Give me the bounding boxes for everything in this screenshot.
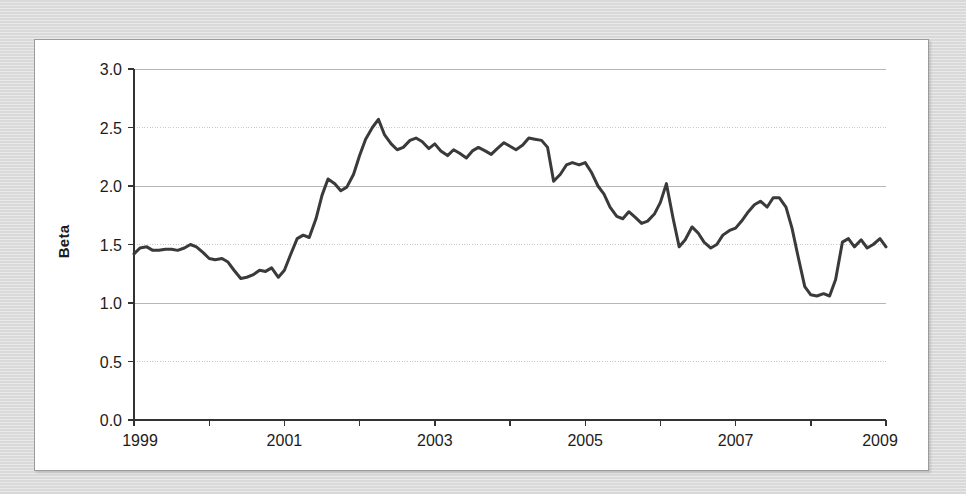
- figure-card: 0.00.51.01.52.02.53.0 199920012003200520…: [34, 39, 929, 471]
- svg-text:2.5: 2.5: [100, 120, 122, 137]
- svg-text:2.0: 2.0: [100, 178, 122, 195]
- x-axis-ticks: [134, 420, 886, 426]
- svg-text:2009: 2009: [862, 432, 898, 449]
- y-axis-ticks: [128, 69, 134, 420]
- axis-lines: [134, 69, 886, 420]
- svg-text:0.0: 0.0: [100, 412, 122, 429]
- grid-lines: [134, 69, 886, 362]
- beta-line-chart: 0.00.51.01.52.02.53.0 199920012003200520…: [35, 40, 930, 472]
- y-axis-tick-labels: 0.00.51.01.52.02.53.0: [100, 61, 122, 429]
- svg-text:2003: 2003: [417, 432, 453, 449]
- svg-text:3.0: 3.0: [100, 61, 122, 78]
- svg-text:2007: 2007: [718, 432, 754, 449]
- svg-text:1.5: 1.5: [100, 237, 122, 254]
- svg-text:0.5: 0.5: [100, 354, 122, 371]
- svg-text:1.0: 1.0: [100, 295, 122, 312]
- plot-area: 0.00.51.01.52.02.53.0 199920012003200520…: [35, 40, 928, 470]
- svg-text:2001: 2001: [267, 432, 303, 449]
- svg-text:1999: 1999: [122, 432, 158, 449]
- data-series-beta: [134, 119, 886, 296]
- x-axis-tick-labels: 199920012003200520072009: [122, 432, 898, 449]
- svg-text:2005: 2005: [567, 432, 603, 449]
